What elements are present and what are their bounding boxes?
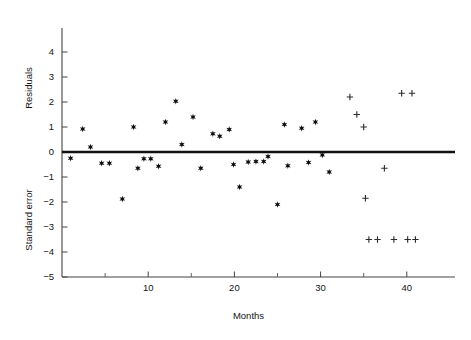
data-point-star	[198, 165, 204, 172]
data-point-star	[245, 159, 251, 166]
data-point-star	[99, 160, 105, 167]
data-point-star	[226, 126, 232, 133]
data-point-star	[141, 155, 147, 162]
data-point-star	[282, 121, 288, 128]
data-point-star	[306, 159, 312, 166]
data-point-star	[237, 184, 243, 191]
data-point-star	[210, 130, 216, 137]
data-point-star	[179, 141, 185, 148]
data-point-star	[119, 196, 125, 203]
x-tick-label: 40	[402, 282, 413, 293]
series-standard-error-cross	[347, 90, 419, 243]
y-axis-title-upper: Residuals	[23, 67, 34, 109]
scatter-chart: 43210−1−2−3−4−510203040 MonthsResidualsS…	[0, 0, 471, 340]
y-tick-label: 0	[49, 146, 54, 157]
data-point-cross	[362, 195, 368, 201]
y-tick-label: −4	[43, 246, 54, 257]
plot-area: 43210−1−2−3−4−510203040 MonthsResidualsS…	[0, 0, 471, 340]
data-point-star	[275, 201, 281, 208]
y-tick-label: 3	[49, 71, 54, 82]
data-point-star	[217, 133, 223, 140]
y-tick-label: 1	[49, 121, 54, 132]
data-point-star	[261, 158, 267, 165]
data-point-star	[148, 155, 154, 162]
data-point-star	[173, 98, 179, 105]
data-point-cross	[412, 236, 418, 242]
y-tick-label: −5	[43, 271, 54, 282]
y-tick-label: −1	[43, 171, 54, 182]
data-point-star	[68, 155, 74, 162]
data-point-star	[231, 161, 237, 168]
data-point-star	[253, 158, 259, 165]
data-point-star	[313, 119, 319, 126]
data-point-star	[80, 126, 86, 133]
data-point-cross	[381, 165, 387, 171]
tick-label-group: 43210−1−2−3−4−510203040	[43, 46, 412, 293]
data-point-cross	[347, 94, 353, 100]
y-axis-title-lower: Standard error	[23, 189, 34, 250]
data-point-star	[135, 165, 141, 172]
data-point-cross	[398, 90, 404, 96]
data-markers	[68, 90, 419, 243]
data-point-cross	[409, 90, 415, 96]
data-point-star	[285, 162, 291, 169]
data-point-star	[88, 144, 94, 151]
y-tick-label: −2	[43, 196, 54, 207]
data-point-star	[156, 163, 162, 170]
y-tick-label: 2	[49, 96, 54, 107]
data-point-cross	[366, 236, 372, 242]
data-point-star	[107, 160, 113, 167]
y-tick-label: 4	[49, 46, 54, 57]
data-point-cross	[391, 236, 397, 242]
data-point-star	[265, 153, 271, 160]
data-point-star	[299, 125, 305, 132]
data-point-cross	[361, 124, 367, 130]
y-tick-label: −3	[43, 221, 54, 232]
data-point-star	[163, 119, 169, 126]
data-point-star	[190, 114, 196, 121]
x-tick-label: 10	[143, 282, 154, 293]
data-point-star	[326, 169, 332, 176]
x-tick-label: 20	[229, 282, 240, 293]
x-axis-title: Months	[233, 310, 264, 321]
data-point-cross	[354, 111, 360, 117]
x-tick-label: 30	[315, 282, 326, 293]
data-point-cross	[404, 236, 410, 242]
data-point-star	[131, 124, 137, 131]
data-point-cross	[374, 236, 380, 242]
